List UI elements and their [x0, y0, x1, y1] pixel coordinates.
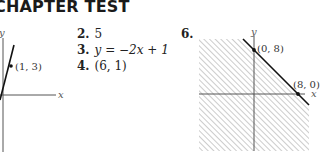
x-axis-label: x: [311, 88, 317, 99]
point-marker: [9, 64, 13, 68]
y-axis-label: y: [250, 26, 257, 37]
line-graph: [0, 45, 14, 100]
point-marker: [252, 48, 256, 52]
graph-6: (0, 8) (8, 0) x y: [199, 26, 320, 151]
point-marker: [296, 92, 300, 96]
x-axis-label: x: [58, 89, 64, 100]
y-axis-label: y: [0, 27, 5, 38]
point-label: (1, 3): [15, 61, 42, 72]
graph-1: (1, 3) x y: [0, 27, 64, 152]
point-label: (0, 8): [257, 43, 284, 54]
graphs: (1, 3) x y (0, 8) (8, 0) x y: [0, 0, 323, 154]
